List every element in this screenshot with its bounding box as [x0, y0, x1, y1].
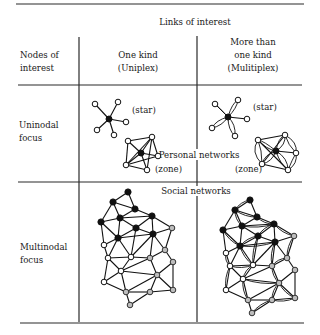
- network-node: [292, 295, 298, 301]
- network-node: [284, 255, 290, 261]
- row-multinodal-line-2: focus: [20, 255, 43, 265]
- column-group-header: Links of interest: [159, 17, 231, 27]
- network-node: [117, 215, 123, 221]
- network-node: [227, 263, 233, 269]
- network-node: [250, 262, 256, 268]
- label-zone-uniplex: (zone): [155, 164, 182, 174]
- network-node: [240, 276, 246, 282]
- network-node: [125, 189, 131, 195]
- network-node: [223, 287, 229, 293]
- network-node: [249, 310, 255, 316]
- label-personal-networks: Personal networks: [159, 150, 240, 160]
- col-uniplex-line-2: (Uniplex): [118, 63, 158, 73]
- row-header-line-2: interest: [20, 63, 54, 73]
- network-node: [154, 272, 160, 278]
- network-node: [127, 302, 133, 308]
- label-star-multiplex: (star): [253, 102, 277, 112]
- network-node: [170, 259, 176, 265]
- row-uninodal-line-2: focus: [19, 133, 42, 143]
- uniplex-social-network: [98, 189, 176, 308]
- network-node: [237, 243, 243, 249]
- network-node: [105, 255, 111, 261]
- network-node: [247, 197, 253, 203]
- network-node: [170, 287, 176, 293]
- network-node: [150, 231, 156, 237]
- row-multinodal-line-1: Multinodal: [20, 242, 68, 252]
- network-node: [276, 280, 282, 286]
- network-node: [291, 233, 297, 239]
- network-node: [220, 227, 226, 233]
- row-uninodal-line-1: Uninodal: [19, 120, 59, 130]
- col-multiplex-line-2: one kind: [234, 50, 272, 60]
- network-node: [147, 255, 153, 261]
- multiplex-star-network: [209, 97, 250, 139]
- network-node: [272, 239, 278, 245]
- network-node: [147, 289, 153, 295]
- label-zone-multiplex: (zone): [235, 164, 262, 174]
- multiplex-zone-network: [255, 132, 299, 173]
- col-multiplex-line-3: (Mulitiplex): [228, 63, 279, 73]
- network-node: [118, 268, 124, 274]
- network-node: [133, 225, 139, 231]
- network-node: [254, 214, 260, 220]
- network-node: [239, 223, 245, 229]
- network-node: [169, 225, 175, 231]
- network-node: [255, 233, 261, 239]
- network-node: [232, 207, 238, 213]
- network-node: [162, 247, 168, 253]
- network-node: [98, 219, 104, 225]
- typology-figure: Links of interest Nodes of interest One …: [0, 0, 320, 335]
- network-node: [132, 206, 138, 212]
- network-node: [223, 250, 229, 256]
- uniplex-star-network: [92, 99, 129, 138]
- network-node: [245, 297, 251, 303]
- label-star-uniplex: (star): [132, 105, 156, 115]
- network-node: [101, 242, 107, 248]
- network-node: [269, 297, 275, 303]
- network-node: [123, 289, 129, 295]
- network-node: [271, 221, 277, 227]
- multiplex-social-network: [220, 197, 298, 316]
- col-uniplex-line-1: One kind: [118, 50, 158, 60]
- col-multiplex-line-1: More than: [230, 37, 276, 47]
- network-node: [115, 235, 121, 241]
- network-node: [292, 267, 298, 273]
- network-node: [269, 263, 275, 269]
- network-node: [101, 279, 107, 285]
- network-node: [128, 254, 134, 260]
- network-node: [149, 213, 155, 219]
- label-social-networks: Social networks: [161, 186, 231, 196]
- network-node: [110, 199, 116, 205]
- row-header-line-1: Nodes of: [20, 50, 60, 60]
